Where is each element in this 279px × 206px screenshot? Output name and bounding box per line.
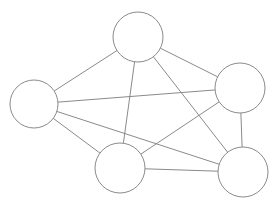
node-top[interactable]: [113, 12, 163, 62]
node-upper-right-circle[interactable]: [215, 63, 265, 113]
edge-top-bottom-middle: [123, 62, 134, 143]
edge-top-upper-right: [160, 48, 217, 77]
edge-left-upper-right: [58, 90, 215, 102]
edge-upper-right-bottom-middle: [141, 102, 219, 154]
node-layer: [10, 12, 268, 197]
graph-diagram: [0, 0, 279, 206]
node-left[interactable]: [10, 80, 58, 128]
edge-top-left: [54, 51, 117, 91]
node-bottom-right-circle[interactable]: [218, 147, 268, 197]
edge-bottom-middle-bottom-right: [145, 169, 218, 171]
edge-layer: [53, 48, 242, 171]
node-bottom-middle[interactable]: [95, 143, 145, 193]
node-bottom-right[interactable]: [218, 147, 268, 197]
node-bottom-middle-circle[interactable]: [95, 143, 145, 193]
node-left-circle[interactable]: [10, 80, 58, 128]
node-upper-right[interactable]: [215, 63, 265, 113]
node-top-circle[interactable]: [113, 12, 163, 62]
edge-upper-right-bottom-right: [241, 113, 242, 147]
